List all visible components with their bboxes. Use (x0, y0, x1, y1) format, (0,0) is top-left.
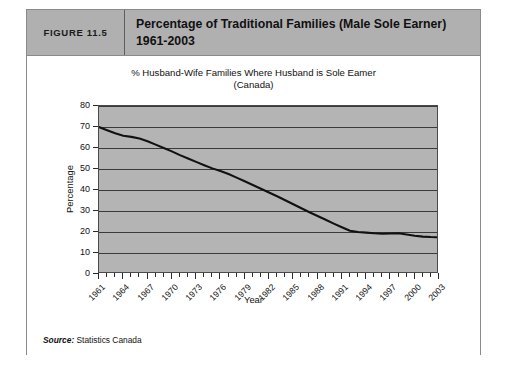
x-axis-tick (138, 273, 139, 277)
y-axis-title: Percentage (64, 165, 75, 213)
chart-title-main: % Husband-Wife Families Where Husband is… (131, 67, 376, 78)
x-axis-tick (292, 273, 293, 279)
x-axis-tick (130, 273, 131, 277)
x-axis-tick (308, 273, 309, 277)
x-axis-tick (155, 273, 156, 277)
x-axis-tick (228, 273, 229, 277)
y-axis-tick (93, 126, 98, 127)
y-axis-tick (93, 252, 98, 253)
source-note: Source: Statistics Canada (43, 335, 142, 345)
y-axis-tick-label: 10 (80, 247, 90, 257)
y-axis-tick (93, 168, 98, 169)
x-axis-tick (438, 273, 439, 279)
y-axis-tick-label: 40 (80, 184, 90, 194)
x-axis-tick (98, 273, 99, 279)
x-axis-tick (114, 273, 115, 277)
figure-title: Percentage of Traditional Families (Male… (125, 10, 480, 55)
x-axis-ticks (98, 273, 438, 279)
figure-number-label: FIGURE 11.5 (27, 10, 125, 55)
figure-title-line-1: Percentage of Traditional Families (Male… (136, 16, 472, 32)
x-axis-tick (260, 273, 261, 277)
x-axis-tick (236, 273, 237, 277)
x-axis-tick (276, 273, 277, 277)
x-axis-title: Year (27, 294, 480, 305)
y-axis-tick (93, 147, 98, 148)
x-axis-tick (268, 273, 269, 279)
x-axis-tick (187, 273, 188, 277)
y-axis-tick-label: 50 (80, 163, 90, 173)
plot-wrapper: Percentage 01020304050607080 19611964196… (98, 105, 438, 273)
x-axis-tick (106, 273, 107, 277)
plot-area (98, 105, 438, 273)
x-axis-tick (365, 273, 366, 279)
x-axis-tick (244, 273, 245, 279)
figure-container: FIGURE 11.5 Percentage of Traditional Fa… (26, 9, 481, 355)
x-axis-tick (349, 273, 350, 277)
source-value: Statistics Canada (74, 335, 142, 345)
x-axis-tick (406, 273, 407, 277)
chart-title-subtitle: (Canada) (27, 79, 480, 91)
x-axis-tick (317, 273, 318, 279)
x-axis-tick (179, 273, 180, 277)
x-axis-tick (122, 273, 123, 279)
y-axis: 01020304050607080 (97, 105, 98, 273)
x-axis-tick (357, 273, 358, 277)
x-axis-tick (163, 273, 164, 277)
data-series-line (99, 106, 438, 273)
y-axis-tick-label: 30 (80, 205, 90, 215)
chart-title: % Husband-Wife Families Where Husband is… (27, 67, 480, 92)
y-axis-tick-label: 20 (80, 226, 90, 236)
x-axis-tick (381, 273, 382, 277)
y-axis-tick-label: 0 (85, 268, 90, 278)
y-axis-tick (93, 231, 98, 232)
x-axis-tick (211, 273, 212, 277)
x-axis-tick (398, 273, 399, 277)
x-axis-tick (203, 273, 204, 277)
x-axis-tick (389, 273, 390, 279)
x-axis-tick (300, 273, 301, 277)
x-axis-tick (430, 273, 431, 277)
x-axis-tick (195, 273, 196, 279)
figure-header: FIGURE 11.5 Percentage of Traditional Fa… (27, 10, 480, 56)
x-axis-tick (252, 273, 253, 277)
x-axis-tick (147, 273, 148, 279)
x-axis-tick (171, 273, 172, 279)
y-axis-tick (93, 210, 98, 211)
y-axis-tick (93, 189, 98, 190)
x-axis-tick (373, 273, 374, 277)
x-axis-tick (422, 273, 423, 277)
source-prefix: Source: (43, 335, 74, 345)
y-axis-tick (93, 105, 98, 106)
y-axis-tick-label: 70 (80, 121, 90, 131)
x-axis-tick (284, 273, 285, 277)
x-axis-tick (219, 273, 220, 279)
x-axis-tick (414, 273, 415, 279)
figure-title-line-2: 1961-2003 (136, 33, 472, 49)
y-axis-tick-label: 80 (80, 100, 90, 110)
y-axis-tick-label: 60 (80, 142, 90, 152)
figure-body: % Husband-Wife Families Where Husband is… (27, 56, 480, 356)
x-axis-tick (341, 273, 342, 279)
x-axis-tick (325, 273, 326, 277)
x-axis-tick (333, 273, 334, 277)
